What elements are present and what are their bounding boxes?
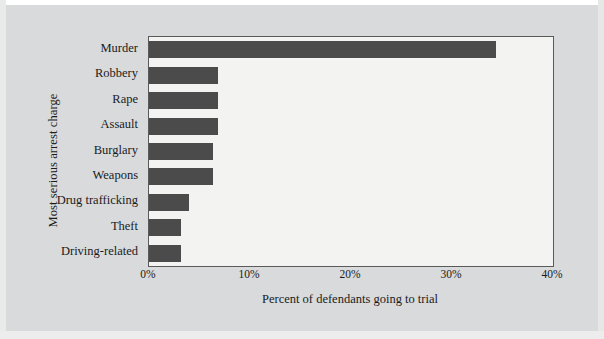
category-label: Theft bbox=[111, 220, 138, 233]
category-label-list: MurderRobberyRapeAssaultBurglaryWeaponsD… bbox=[18, 36, 142, 265]
figure-left-edge bbox=[0, 0, 6, 339]
category-label: Robbery bbox=[95, 67, 138, 80]
bar bbox=[149, 194, 189, 211]
x-tick-label: 20% bbox=[339, 268, 360, 280]
figure-top-edge bbox=[0, 0, 604, 5]
category-label: Murder bbox=[101, 42, 139, 55]
category-label: Weapons bbox=[92, 169, 138, 182]
category-label: Burglary bbox=[94, 144, 138, 157]
category-label: Driving-related bbox=[61, 245, 138, 258]
bar bbox=[149, 118, 218, 135]
bar bbox=[149, 168, 213, 185]
category-label: Drug trafficking bbox=[57, 194, 138, 207]
bar bbox=[149, 92, 218, 109]
bar bbox=[149, 41, 496, 58]
x-tick-label: 30% bbox=[440, 268, 461, 280]
bar bbox=[149, 67, 218, 84]
bar bbox=[149, 245, 181, 262]
bar bbox=[149, 219, 181, 236]
plot-area bbox=[148, 36, 554, 267]
figure-right-edge bbox=[598, 0, 604, 339]
bar bbox=[149, 143, 213, 160]
chart-figure: Most serious arrest charge MurderRobbery… bbox=[0, 0, 604, 339]
x-tick-label: 10% bbox=[238, 268, 259, 280]
figure-bottom-edge bbox=[0, 331, 604, 339]
x-tick-label: 0% bbox=[140, 268, 155, 280]
category-label: Rape bbox=[112, 93, 138, 106]
x-axis-title: Percent of defendants going to trial bbox=[148, 292, 552, 307]
x-tick-label: 40% bbox=[541, 268, 562, 280]
x-axis-tick-labels: 0%10%20%30%40% bbox=[148, 268, 552, 284]
category-label: Assault bbox=[101, 118, 139, 131]
